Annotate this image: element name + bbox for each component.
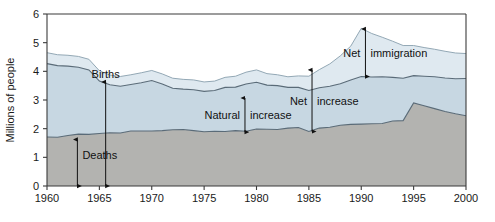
annotation-label-net-increase-cont: increase [317, 95, 359, 107]
y-tick-label: 4 [33, 65, 39, 77]
y-tick-label: 5 [33, 37, 39, 49]
population-change-chart-figure: 0123456 19601965197019751980198519901995… [0, 0, 495, 222]
x-tick-label: 1975 [192, 192, 216, 204]
y-tick-label: 2 [33, 123, 39, 135]
annotation-label-natural-increase: Natural [205, 109, 240, 121]
x-axis-ticks: 196019651970197519801985199019952000 [35, 186, 478, 204]
chart-canvas: 0123456 19601965197019751980198519901995… [0, 0, 495, 222]
x-tick-label: 1960 [35, 192, 59, 204]
annotation-label-births: Births [92, 68, 121, 80]
x-tick-label: 1990 [349, 192, 373, 204]
x-tick-label: 1965 [87, 192, 111, 204]
annotation-label-deaths: Deaths [82, 149, 117, 161]
y-tick-label: 0 [33, 180, 39, 192]
annotation-label-net-increase: Net [290, 95, 307, 107]
x-tick-label: 1980 [244, 192, 268, 204]
y-tick-label: 6 [33, 8, 39, 20]
y-tick-label: 1 [33, 151, 39, 163]
y-axis-title: Millions of people [4, 58, 16, 143]
annotation-label-net-immigration-cont: immigration [370, 47, 427, 59]
annotation-label-natural-increase-cont: increase [250, 109, 292, 121]
x-tick-label: 1995 [401, 192, 425, 204]
y-tick-label: 3 [33, 94, 39, 106]
annotation-label-net-immigration: Net [343, 47, 360, 59]
x-tick-label: 1985 [297, 192, 321, 204]
y-axis-ticks: 0123456 [33, 8, 47, 192]
x-tick-label: 2000 [454, 192, 478, 204]
x-tick-label: 1970 [140, 192, 164, 204]
